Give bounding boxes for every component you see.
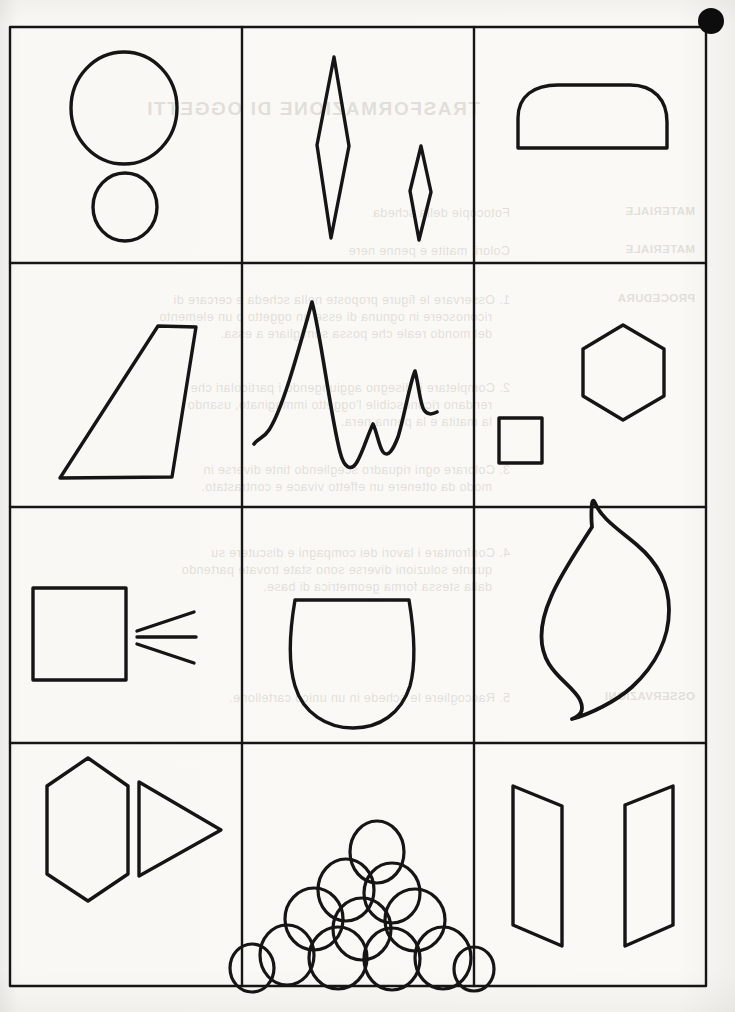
cell-1-1[interactable] bbox=[10, 27, 242, 263]
cell-hit-areas bbox=[10, 27, 706, 986]
cell-1-2[interactable] bbox=[242, 27, 474, 263]
cell-2-3[interactable] bbox=[474, 263, 706, 507]
cell-4-2[interactable] bbox=[242, 743, 474, 986]
cell-4-1[interactable] bbox=[10, 743, 242, 986]
cell-2-2[interactable] bbox=[242, 263, 474, 507]
cell-3-1[interactable] bbox=[10, 507, 242, 743]
cell-3-3[interactable] bbox=[474, 507, 706, 743]
worksheet-page: TRASFORMAZIONE DI OGGETTI MATERIALE MATE… bbox=[0, 0, 735, 1012]
cell-1-3[interactable] bbox=[474, 27, 706, 263]
cell-2-1[interactable] bbox=[10, 263, 242, 507]
cell-3-2[interactable] bbox=[242, 507, 474, 743]
cell-4-3[interactable] bbox=[474, 743, 706, 986]
line-art-layer bbox=[0, 0, 735, 1012]
